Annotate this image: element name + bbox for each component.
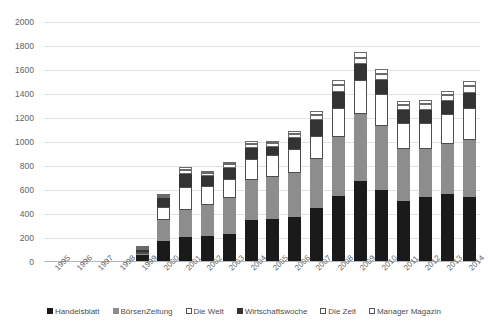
bar-segment[interactable] — [419, 123, 432, 149]
bar-slot[interactable] — [306, 22, 328, 262]
bar-segment[interactable] — [179, 187, 192, 210]
bar-segment[interactable] — [463, 197, 476, 262]
stacked-bar[interactable] — [288, 131, 301, 262]
bar-slot[interactable] — [349, 22, 371, 262]
bar-slot[interactable] — [240, 22, 262, 262]
bar-segment[interactable] — [419, 149, 432, 197]
bar-segment[interactable] — [397, 149, 410, 201]
bar-segment[interactable] — [245, 220, 258, 262]
bar-segment[interactable] — [157, 220, 170, 241]
bar-segment[interactable] — [179, 174, 192, 187]
bar-segment[interactable] — [441, 144, 454, 194]
bar-slot[interactable] — [262, 22, 284, 262]
legend-item[interactable]: Die Welt — [186, 307, 224, 316]
bar-segment[interactable] — [266, 219, 279, 262]
bar-segment[interactable] — [310, 136, 323, 159]
bar-segment[interactable] — [441, 194, 454, 262]
bar-segment[interactable] — [375, 190, 388, 262]
legend-item[interactable]: BörsenZeitung — [113, 307, 173, 316]
bar-slot[interactable] — [109, 22, 131, 262]
bar-segment[interactable] — [288, 149, 301, 173]
bar-segment[interactable] — [266, 155, 279, 178]
bar-slot[interactable] — [44, 22, 66, 262]
bar-segment[interactable] — [375, 80, 388, 94]
bar-segment[interactable] — [157, 207, 170, 220]
bar-segment[interactable] — [310, 120, 323, 136]
stacked-bar[interactable] — [441, 91, 454, 262]
bar-segment[interactable] — [463, 93, 476, 108]
bar-slot[interactable] — [327, 22, 349, 262]
stacked-bar[interactable] — [463, 81, 476, 262]
stacked-bar[interactable] — [310, 111, 323, 262]
stacked-bar[interactable] — [354, 52, 367, 262]
bar-segment[interactable] — [201, 186, 214, 205]
stacked-bar[interactable] — [266, 141, 279, 262]
bar-segment[interactable] — [332, 85, 345, 92]
bar-segment[interactable] — [288, 173, 301, 217]
bar-slot[interactable] — [175, 22, 197, 262]
stacked-bar[interactable] — [201, 171, 214, 262]
stacked-bar[interactable] — [179, 167, 192, 262]
bar-segment[interactable] — [157, 198, 170, 206]
bar-segment[interactable] — [375, 94, 388, 126]
bar-segment[interactable] — [397, 201, 410, 262]
stacked-bar[interactable] — [375, 69, 388, 262]
bar-segment[interactable] — [332, 137, 345, 196]
bar-segment[interactable] — [223, 198, 236, 234]
bar-segment[interactable] — [397, 123, 410, 149]
legend-item[interactable]: Manager Magazin — [369, 307, 441, 316]
bar-segment[interactable] — [245, 159, 258, 181]
bar-slot[interactable] — [66, 22, 88, 262]
bar-segment[interactable] — [463, 140, 476, 196]
bar-slot[interactable] — [153, 22, 175, 262]
bar-slot[interactable] — [371, 22, 393, 262]
bar-segment[interactable] — [441, 101, 454, 114]
bar-slot[interactable] — [197, 22, 219, 262]
stacked-bar[interactable] — [223, 162, 236, 262]
bar-segment[interactable] — [245, 148, 258, 159]
stacked-bar[interactable] — [157, 194, 170, 262]
bar-segment[interactable] — [332, 92, 345, 109]
legend-item[interactable]: Die Zeit — [320, 307, 356, 316]
legend-item[interactable]: Wirtschaftswoche — [237, 307, 308, 316]
bar-segment[interactable] — [201, 205, 214, 236]
bar-segment[interactable] — [354, 64, 367, 80]
bar-segment[interactable] — [419, 110, 432, 123]
bar-segment[interactable] — [463, 108, 476, 140]
bar-segment[interactable] — [288, 138, 301, 148]
bar-segment[interactable] — [441, 114, 454, 143]
legend-item[interactable]: Handelsblatt — [47, 307, 99, 316]
bar-slot[interactable] — [88, 22, 110, 262]
bar-slot[interactable] — [218, 22, 240, 262]
bar-segment[interactable] — [223, 168, 236, 179]
bar-segment[interactable] — [223, 179, 236, 198]
bar-segment[interactable] — [375, 126, 388, 190]
stacked-bar[interactable] — [332, 80, 345, 262]
bar-segment[interactable] — [354, 181, 367, 262]
bar-segment[interactable] — [397, 110, 410, 123]
bar-segment[interactable] — [266, 147, 279, 155]
bar-segment[interactable] — [354, 114, 367, 181]
bar-slot[interactable] — [393, 22, 415, 262]
stacked-bar[interactable] — [419, 100, 432, 262]
bar-segment[interactable] — [310, 208, 323, 262]
bar-slot[interactable] — [131, 22, 153, 262]
bar-segment[interactable] — [266, 177, 279, 218]
bar-segment[interactable] — [179, 210, 192, 237]
x-axis-slot: 2010 — [371, 264, 393, 296]
bar-segment[interactable] — [332, 108, 345, 137]
bar-segment[interactable] — [245, 180, 258, 220]
stacked-bar[interactable] — [397, 101, 410, 262]
bar-segment[interactable] — [354, 80, 367, 114]
bar-segment[interactable] — [332, 196, 345, 262]
bar-segment[interactable] — [288, 217, 301, 262]
bar-segment[interactable] — [463, 86, 476, 93]
bar-segment[interactable] — [310, 159, 323, 208]
bar-slot[interactable] — [458, 22, 480, 262]
bar-segment[interactable] — [201, 176, 214, 186]
stacked-bar[interactable] — [245, 141, 258, 262]
bar-slot[interactable] — [415, 22, 437, 262]
bar-slot[interactable] — [436, 22, 458, 262]
bar-segment[interactable] — [419, 197, 432, 262]
bar-slot[interactable] — [284, 22, 306, 262]
